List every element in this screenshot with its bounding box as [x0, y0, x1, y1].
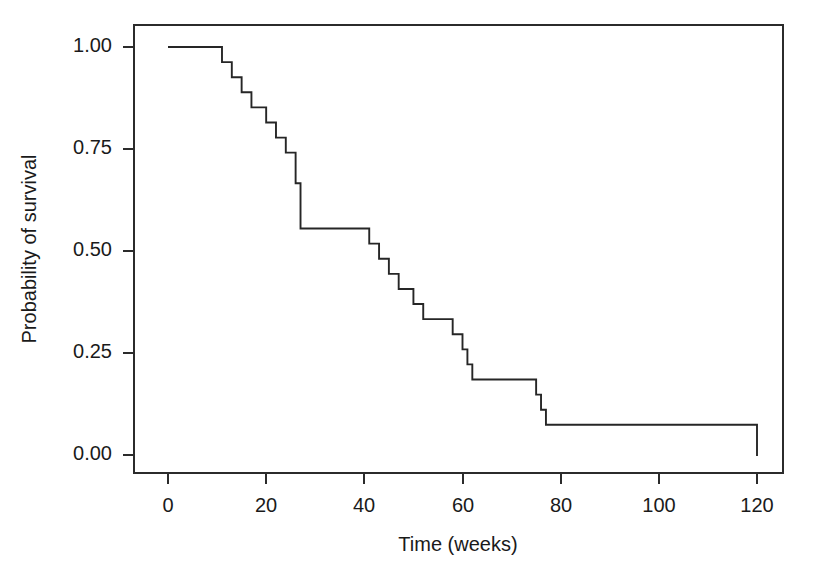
x-tick-label: 40	[353, 494, 375, 516]
y-tick-label: 0.00	[73, 442, 112, 464]
y-tick-label: 0.75	[73, 136, 112, 158]
x-tick-label: 0	[162, 494, 173, 516]
survival-chart-canvas: 0 20 40 60 80 100 120 1.00 0.75 0.50 0.2…	[0, 0, 822, 576]
y-tick-label: 1.00	[73, 34, 112, 56]
y-tick-label: 0.25	[73, 340, 112, 362]
x-tick-label: 100	[642, 494, 675, 516]
x-tick-label: 60	[452, 494, 474, 516]
x-tick-label: 80	[550, 494, 572, 516]
survival-chart-figure: 0 20 40 60 80 100 120 1.00 0.75 0.50 0.2…	[0, 0, 822, 576]
y-tick-label: 0.50	[73, 238, 112, 260]
x-tick-label: 20	[255, 494, 277, 516]
y-axis-title: Probability of survival	[18, 155, 40, 344]
x-tick-label: 120	[740, 494, 773, 516]
x-axis-title: Time (weeks)	[398, 533, 517, 555]
